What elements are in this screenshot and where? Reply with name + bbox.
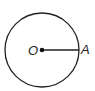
center-point [40, 48, 45, 53]
center-label: O [28, 43, 38, 58]
point-label: A [80, 42, 90, 57]
circle-diagram: O A [0, 0, 95, 91]
